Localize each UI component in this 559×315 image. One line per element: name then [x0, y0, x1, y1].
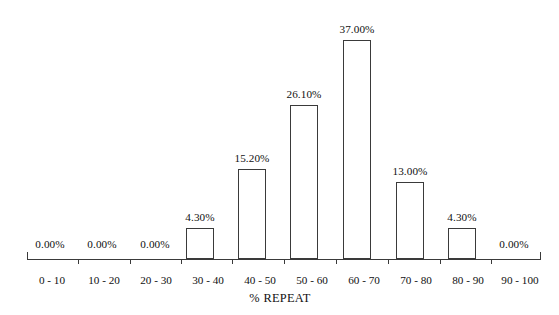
x-axis-tick-60 — [336, 259, 337, 264]
x-axis-right-endcap — [540, 252, 541, 260]
bar-40-50 — [238, 169, 266, 259]
x-tick-label-90-100: 90 - 100 — [487, 275, 553, 286]
x-axis-tick-90 — [491, 259, 492, 264]
bar-70-80 — [396, 182, 424, 259]
x-axis-tick-30 — [181, 259, 182, 264]
x-axis-tick-20 — [130, 259, 131, 264]
bar-60-70 — [343, 40, 371, 259]
x-axis-tick-80 — [440, 259, 441, 264]
x-axis-tick-70 — [388, 259, 389, 264]
x-axis-title: % REPEAT — [180, 292, 380, 304]
bar-value-label-40-50: 15.20% — [219, 153, 285, 164]
histogram-chart: 0.00% 0.00% 0.00% 4.30% 15.20% 26.10% 37… — [0, 0, 559, 315]
plot-area: 0.00% 0.00% 0.00% 4.30% 15.20% 26.10% 37… — [0, 0, 559, 315]
bar-value-label-60-70: 37.00% — [324, 24, 390, 35]
x-axis-left-endcap — [27, 252, 28, 260]
bar-value-label-50-60: 26.10% — [271, 89, 337, 100]
bar-80-90 — [448, 228, 476, 259]
x-axis-tick-10 — [78, 259, 79, 264]
x-axis-tick-40 — [232, 259, 233, 264]
x-axis-tick-50 — [284, 259, 285, 264]
bar-value-label-90-100: 0.00% — [483, 239, 545, 250]
bar-value-label-20-30: 0.00% — [124, 239, 186, 250]
bar-50-60 — [290, 105, 318, 259]
bar-value-label-80-90: 4.30% — [431, 212, 493, 223]
bar-value-label-30-40: 4.30% — [169, 212, 231, 223]
bar-30-40 — [186, 228, 214, 259]
bar-value-label-70-80: 13.00% — [377, 166, 443, 177]
